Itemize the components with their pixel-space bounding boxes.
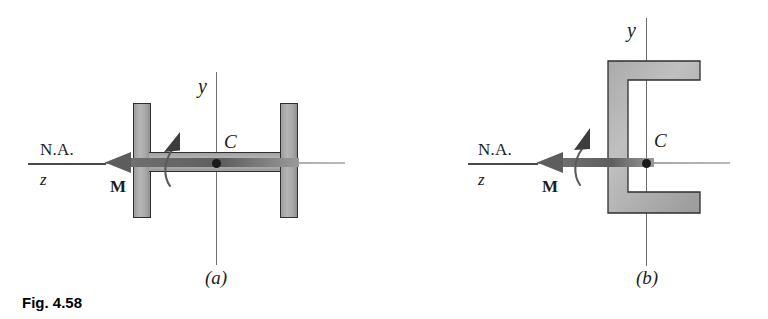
rotation-curve-head-a [164, 132, 180, 152]
z-axis-label-b: z [478, 171, 485, 188]
y-axis-label-a: y [198, 76, 207, 96]
moment-arrow-shaft-b [559, 158, 654, 167]
centroid-dot-b [642, 159, 651, 168]
rotation-curve-head-b [574, 128, 590, 150]
centroid-dot-a [212, 159, 221, 168]
centroid-label-a: C [224, 132, 237, 151]
moment-label-a: M [110, 178, 126, 195]
panel-a-i-beam-section: y N.A. z C M (a) [0, 0, 384, 290]
na-leader-line-a [28, 163, 106, 165]
panel-b-channel-section: y N.A. z C M (b) [384, 0, 768, 290]
na-leader-line-b [468, 163, 538, 165]
moment-label-b: M [542, 178, 558, 195]
figure-caption: Fig. 4.58 [22, 294, 82, 311]
moment-arrow-head-b [537, 152, 563, 173]
panel-sublabel-b: (b) [636, 268, 658, 287]
z-axis-label-a: z [40, 171, 47, 188]
rotation-curve-a [165, 150, 172, 186]
neutral-axis-label-a: N.A. [40, 141, 74, 158]
centroid-label-b: C [654, 131, 667, 150]
neutral-axis-label-b: N.A. [478, 141, 512, 158]
figure-4-58: y N.A. z C M (a) [0, 0, 768, 319]
moment-arrow-head-a [105, 152, 131, 173]
y-axis-label-b: y [627, 20, 636, 40]
panel-sublabel-a: (a) [205, 268, 227, 287]
channel-section-shape [384, 0, 768, 290]
